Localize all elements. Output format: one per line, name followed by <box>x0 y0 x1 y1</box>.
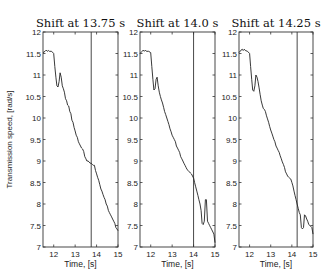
y-tick-label: 9 <box>134 157 139 166</box>
y-tick-label: 7 <box>233 243 238 252</box>
x-axis-label: Time, [s] <box>161 259 193 269</box>
speed-series-line <box>239 49 313 234</box>
y-tick-label: 9.5 <box>127 136 139 145</box>
x-tick-label: 15 <box>309 250 318 259</box>
x-tick-label: 15 <box>114 250 123 259</box>
panel-title: Shift at 14.0 s <box>137 16 219 30</box>
speed-series-line <box>43 50 118 231</box>
y-tick-label: 9 <box>233 157 238 166</box>
y-tick-label: 10 <box>228 114 237 123</box>
y-tick-label: 11.5 <box>222 50 238 59</box>
x-axis-label: Time, [s] <box>260 259 292 269</box>
y-tick-label: 10 <box>129 114 138 123</box>
y-tick-label: 10.5 <box>25 93 41 102</box>
y-tick-label: 9.5 <box>226 136 238 145</box>
y-tick-label: 11.5 <box>123 50 139 59</box>
speed-series-line <box>140 50 215 243</box>
y-tick-label: 11 <box>33 71 42 80</box>
x-tick-label: 13 <box>71 250 80 259</box>
y-axis-label: Transmission speed, [rad/s] <box>5 91 14 189</box>
y-tick-label: 7 <box>134 243 139 252</box>
panel-title: Shift at 13.75 s <box>36 16 125 30</box>
y-tick-label: 7.5 <box>30 222 42 231</box>
y-tick-label: 7.5 <box>127 222 139 231</box>
panel-title: Shift at 14.25 s <box>231 16 320 30</box>
y-tick-label: 10 <box>32 114 41 123</box>
chart-figure: 77.588.599.51010.51111.51212131415Shift … <box>0 0 331 278</box>
y-tick-label: 8 <box>134 200 139 209</box>
y-tick-label: 8 <box>37 200 42 209</box>
x-tick-label: 14 <box>287 250 296 259</box>
x-tick-label: 14 <box>92 250 101 259</box>
y-tick-label: 11 <box>130 71 139 80</box>
plot-panel-1: 77.588.599.51010.51111.51212131415Shift … <box>5 16 125 269</box>
y-tick-label: 8.5 <box>226 179 238 188</box>
x-tick-label: 13 <box>266 250 275 259</box>
y-tick-label: 11 <box>229 71 238 80</box>
y-tick-label: 10.5 <box>122 93 138 102</box>
x-axis-label: Time, [s] <box>64 259 96 269</box>
x-tick-label: 15 <box>211 250 220 259</box>
x-tick-label: 13 <box>168 250 177 259</box>
y-tick-label: 8.5 <box>30 179 42 188</box>
y-tick-label: 8.5 <box>127 179 139 188</box>
x-tick-label: 12 <box>49 250 58 259</box>
y-tick-label: 9.5 <box>30 136 42 145</box>
y-tick-label: 9 <box>37 157 42 166</box>
x-tick-label: 14 <box>189 250 198 259</box>
plot-panel-3: 77.588.599.51010.51111.51212131415Shift … <box>221 16 320 269</box>
x-tick-label: 12 <box>146 250 155 259</box>
y-tick-label: 10.5 <box>221 93 237 102</box>
y-tick-label: 7 <box>37 243 42 252</box>
y-tick-label: 8 <box>233 200 238 209</box>
x-tick-label: 12 <box>245 250 254 259</box>
y-tick-label: 7.5 <box>226 222 238 231</box>
plot-panel-2: 77.588.599.51010.51111.51212131415Shift … <box>122 16 220 269</box>
y-tick-label: 11.5 <box>26 50 42 59</box>
